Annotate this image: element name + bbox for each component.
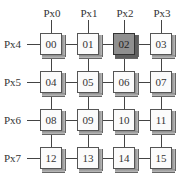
row-label-px6: Px6 [4,114,26,126]
node-label: 08 [40,109,62,131]
node-02-highlighted: 02 [113,33,135,55]
node-label: 06 [113,71,135,93]
node-03: 03 [150,33,172,55]
column-label-px1: Px1 [74,7,104,19]
node-label: 02 [113,33,135,55]
node-12: 12 [40,147,62,169]
node-09: 09 [77,109,99,131]
column-label-px2: Px2 [110,7,140,19]
node-05: 05 [77,71,99,93]
node-label: 10 [113,109,135,131]
node-label: 03 [150,33,172,55]
node-label: 15 [150,147,172,169]
node-11: 11 [150,109,172,131]
column-label-px3: Px3 [147,7,177,19]
node-label: 09 [77,109,99,131]
row-label-px7: Px7 [4,152,26,164]
row-label-px4: Px4 [4,38,26,50]
node-15: 15 [150,147,172,169]
column-label-px0: Px0 [37,7,67,19]
node-label: 04 [40,71,62,93]
node-label: 14 [113,147,135,169]
node-label: 05 [77,71,99,93]
node-08: 08 [40,109,62,131]
node-label: 01 [77,33,99,55]
node-06: 06 [113,71,135,93]
node-01: 01 [77,33,99,55]
node-label: 00 [40,33,62,55]
node-label: 12 [40,147,62,169]
node-07: 07 [150,71,172,93]
node-10: 10 [113,109,135,131]
mesh-diagram: Px0 Px1 Px2 Px3 Px4 Px5 Px6 Px7 00 01 02… [0,0,182,184]
row-label-px5: Px5 [4,76,26,88]
node-label: 13 [77,147,99,169]
node-00: 00 [40,33,62,55]
node-13: 13 [77,147,99,169]
node-label: 11 [150,109,172,131]
node-label: 07 [150,71,172,93]
node-04: 04 [40,71,62,93]
node-14: 14 [113,147,135,169]
